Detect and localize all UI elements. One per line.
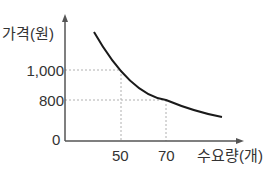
y-tick-800: 800 — [39, 93, 64, 108]
x-axis-arrow-icon — [236, 138, 244, 144]
x-tick-50: 50 — [112, 148, 129, 163]
x-axis-label: 수요량(개) — [197, 148, 263, 163]
origin-label: 0 — [52, 132, 60, 147]
y-axis-arrow-icon — [62, 14, 68, 22]
x-tick-70: 70 — [158, 148, 175, 163]
demand-curve — [94, 32, 222, 117]
y-axis-label: 가격(원) — [2, 26, 54, 41]
y-tick-1000: 1,000 — [26, 63, 64, 78]
